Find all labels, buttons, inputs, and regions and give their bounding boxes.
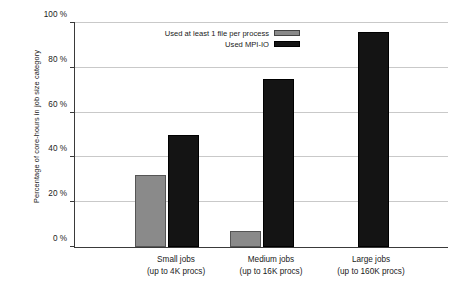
legend-swatch-files-per-process [274, 30, 300, 37]
x-tick-label-medium: Medium jobs (up to 16K procs) [221, 254, 321, 277]
gridline-60 [75, 112, 448, 113]
gridline-80 [75, 67, 448, 68]
bar-large-mpiio [358, 32, 389, 247]
legend-label-mpiio: Used MPI-IO [225, 40, 269, 49]
y-tick-label-60: 60 % [48, 99, 67, 108]
gridline-100 [75, 22, 448, 23]
y-tick-60 [70, 112, 75, 113]
bar-medium-files-per-process [230, 231, 261, 247]
y-tick-label-40: 40 % [48, 144, 67, 153]
x-tick-label-large-line2: (up to 160K procs) [316, 266, 426, 278]
x-tick-label-large-line1: Large jobs [352, 255, 390, 264]
legend-item-files-per-process: Used at least 1 file per process [112, 28, 300, 38]
x-tick-label-medium-line2: (up to 16K procs) [221, 266, 321, 278]
y-tick-40 [70, 156, 75, 157]
x-tick-label-small-line1: Small jobs [157, 255, 195, 264]
y-tick-100 [70, 22, 75, 23]
y-tick-label-20: 20 % [48, 189, 67, 198]
y-tick-0 [70, 246, 75, 247]
y-tick-label-80: 80 % [48, 54, 67, 63]
x-tick-label-small: Small jobs (up to 4K procs) [126, 254, 226, 277]
y-axis-title: Percentage of core-hours in job size cat… [32, 17, 41, 237]
gridline-20 [75, 201, 448, 202]
bar-small-mpiio [168, 135, 199, 247]
x-tick-label-medium-line1: Medium jobs [248, 255, 294, 264]
bar-chart-figure: Percentage of core-hours in job size cat… [0, 0, 465, 293]
legend-item-mpiio: Used MPI-IO [112, 39, 300, 49]
legend: Used at least 1 file per process Used MP… [112, 28, 300, 50]
x-tick-label-large: Large jobs (up to 160K procs) [316, 254, 426, 277]
legend-label-files-per-process: Used at least 1 file per process [165, 29, 269, 38]
y-tick-80 [70, 67, 75, 68]
legend-swatch-mpiio [274, 41, 300, 48]
plot-area: 100 % 80 % 60 % 40 % 20 % 0 % [74, 23, 448, 248]
y-tick-label-100: 100 % [44, 10, 67, 19]
x-tick-label-small-line2: (up to 4K procs) [126, 266, 226, 278]
bar-small-files-per-process [135, 175, 166, 247]
bar-medium-mpiio [263, 79, 294, 247]
gridline-40 [75, 156, 448, 157]
y-tick-label-0: 0 % [53, 234, 67, 243]
y-tick-20 [70, 201, 75, 202]
